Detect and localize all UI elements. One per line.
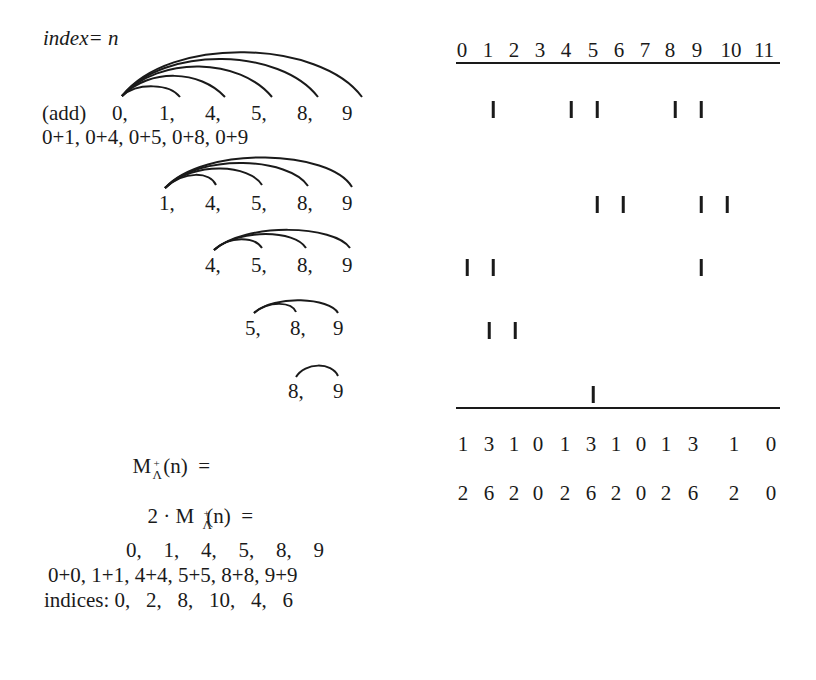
m-value: 1 — [560, 432, 571, 456]
row4-element: 9 — [333, 316, 344, 340]
tally-mark — [466, 259, 469, 276]
row3-element: 9 — [342, 253, 353, 277]
row2-element: 9 — [342, 191, 353, 215]
tally-mark — [488, 322, 491, 339]
row5-element: 8, — [288, 379, 304, 403]
header-rule — [456, 62, 780, 64]
sums-line: 0+1, 0+4, 0+5, 0+8, 0+9 — [42, 125, 248, 149]
arc-0-5 — [122, 66, 272, 97]
arc-1-5 — [165, 168, 262, 188]
m-lambda-label: M+Λ(n) = — [122, 430, 210, 478]
arc-1-4 — [165, 175, 216, 188]
two-m-value: 2 — [729, 481, 740, 505]
m-value: 1 — [661, 432, 672, 456]
m-value: 3 — [484, 432, 495, 456]
m-value: 3 — [586, 432, 597, 456]
base-element-1: 1, — [159, 101, 175, 125]
row2-element: 4, — [205, 191, 221, 215]
two-m-value: 0 — [766, 481, 777, 505]
column-label: 0 — [457, 38, 468, 62]
two-m-value: 2 — [509, 481, 520, 505]
arc-1-9 — [165, 157, 352, 188]
m-value: 1 — [458, 432, 469, 456]
two-m-value: 2 — [560, 481, 571, 505]
two-m-value: 0 — [533, 481, 544, 505]
m-value: 0 — [533, 432, 544, 456]
arc-1-8 — [165, 163, 308, 188]
m-value: 3 — [688, 432, 699, 456]
m-arg: (n) = — [163, 454, 210, 478]
tally-mark — [514, 322, 517, 339]
doubles-sums: 0+0, 1+1, 4+4, 5+5, 8+8, 9+9 — [48, 563, 298, 587]
arc-4-8 — [214, 234, 306, 250]
row4-element: 5, — [245, 316, 261, 340]
column-label: 4 — [561, 38, 572, 62]
row2-element: 8, — [297, 191, 313, 215]
m-value: 1 — [729, 432, 740, 456]
row3-element: 4, — [205, 253, 221, 277]
arc-0-1 — [122, 86, 180, 97]
base-element-0: 0, — [112, 101, 128, 125]
column-label: 8 — [665, 38, 676, 62]
tally-mark — [674, 101, 677, 118]
row3-element: 5, — [251, 253, 267, 277]
two-m-value: 0 — [636, 481, 647, 505]
doubles-set: 0, 1, 4, 5, 8, 9 — [126, 538, 324, 562]
tally-mark — [570, 101, 573, 118]
column-label: 10 — [721, 38, 742, 62]
two-m-value: 6 — [586, 481, 597, 505]
tally-mark — [492, 259, 495, 276]
m-value: 0 — [636, 432, 647, 456]
lambda-subscript: Λ — [203, 513, 212, 537]
row3-element: 8, — [297, 253, 313, 277]
column-label: 1 — [483, 38, 494, 62]
column-label: 7 — [640, 38, 651, 62]
tally-mark — [596, 101, 599, 118]
tally-mark — [492, 101, 495, 118]
row2-element: 5, — [251, 191, 267, 215]
add-prefix: (add) — [42, 101, 86, 125]
row2-element: 1, — [159, 191, 175, 215]
arc-8-9 — [296, 366, 338, 377]
tally-mark — [592, 386, 595, 403]
column-label: 6 — [614, 38, 625, 62]
arc-4-5 — [214, 239, 262, 250]
tally-mark — [700, 101, 703, 118]
tally-mark — [700, 259, 703, 276]
two-m-lambda-label: 2 · M+Λ(n) = — [137, 480, 253, 528]
row5-element: 9 — [333, 379, 344, 403]
tally-mark — [700, 196, 703, 213]
tally-mark — [726, 196, 729, 213]
base-element-9: 9 — [342, 101, 353, 125]
two-m-symbol: 2 · M — [148, 504, 195, 528]
base-element-5: 5, — [251, 101, 267, 125]
two-m-value: 2 — [611, 481, 622, 505]
column-label: 11 — [754, 38, 774, 62]
two-m-arg: (n) = — [206, 504, 253, 528]
tally-mark — [596, 196, 599, 213]
column-label: 2 — [509, 38, 520, 62]
column-label: 3 — [535, 38, 546, 62]
m-value: 0 — [766, 432, 777, 456]
index-label: index= n — [43, 26, 118, 50]
m-value: 1 — [509, 432, 520, 456]
sum-rule — [456, 407, 780, 409]
column-label: 9 — [692, 38, 703, 62]
two-m-value: 2 — [661, 481, 672, 505]
arc-5-8 — [254, 304, 296, 313]
m-symbol: M — [133, 454, 152, 478]
two-m-value: 6 — [688, 481, 699, 505]
arc-0-4 — [122, 76, 225, 97]
base-element-8: 8, — [297, 101, 313, 125]
m-value: 1 — [611, 432, 622, 456]
two-m-value: 2 — [458, 481, 469, 505]
column-label: 5 — [588, 38, 599, 62]
arc-0-8 — [122, 59, 318, 97]
row4-element: 8, — [290, 316, 306, 340]
arc-4-9 — [214, 230, 350, 250]
indices-line: indices: 0, 2, 8, 10, 4, 6 — [44, 588, 293, 612]
arc-0-9 — [122, 52, 362, 97]
two-m-value: 6 — [484, 481, 495, 505]
base-element-4: 4, — [205, 101, 221, 125]
arc-5-9 — [254, 300, 338, 313]
